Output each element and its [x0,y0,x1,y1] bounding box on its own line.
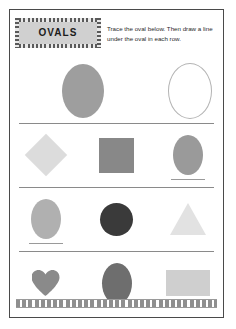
shape-slot [31,132,61,178]
shape-cell[interactable] [10,187,81,251]
worksheet-header: OVALS Trace the oval below. Then draw a … [10,10,223,58]
exercise-row-2[interactable] [10,187,223,251]
exercise-row-1-cells [10,123,223,187]
shape-slot [100,196,133,242]
banner-border-left-icon [15,18,19,48]
title-banner: OVALS [15,18,101,48]
shape-cell[interactable] [10,123,81,187]
banner-border-right-icon [97,18,101,48]
worksheet-page: OVALS Trace the oval below. Then draw a … [9,9,224,318]
diamond-shape [24,134,66,176]
shape-slot [170,196,206,242]
shape-cell[interactable] [81,187,152,251]
heart-body [32,270,60,296]
bottom-border-decoration-icon [16,299,217,308]
heart-shape [32,270,60,296]
answer-line[interactable] [29,243,63,244]
shape-slot [168,68,212,114]
oval-trace-shape [168,63,212,119]
shape-slot [31,196,61,242]
exercise-row-2-cells [10,187,223,251]
page-title: OVALS [38,28,77,38]
answer-line[interactable] [171,179,205,180]
oval-shape [31,199,61,239]
shape-cell[interactable] [137,58,236,123]
shape-cell[interactable] [81,123,152,187]
oval-filled-shape [62,64,104,118]
shape-slot [173,132,203,178]
circle-shape [100,203,133,236]
shape-cell[interactable] [30,58,137,123]
banner-border-bottom-icon [15,44,101,48]
exercise-row-1[interactable] [10,123,223,187]
rectangle-shape [166,270,210,296]
instructions-text: Trace the oval below. Then draw a line u… [107,24,219,44]
example-row [10,58,223,123]
triangle-shape [170,203,206,235]
shape-cell[interactable] [152,123,223,187]
square-shape [99,138,134,173]
title-banner-inner: OVALS [19,22,97,44]
shape-slot [99,132,134,178]
banner-border-top-icon [15,18,101,22]
oval-shape [173,135,203,175]
oval-shape [102,263,132,304]
shape-slot [62,68,104,114]
shape-cell[interactable] [152,187,223,251]
example-row-cells [10,58,235,123]
